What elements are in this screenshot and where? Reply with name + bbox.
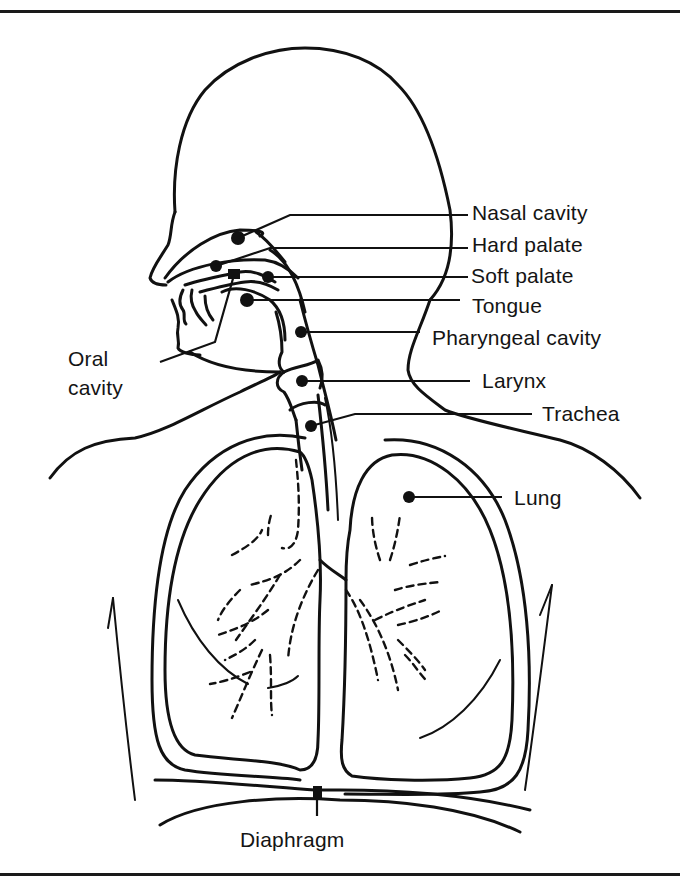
label-hard-palate: Hard palate — [472, 233, 583, 257]
label-diaphragm: Diaphragm — [240, 828, 345, 852]
label-nasal-cavity: Nasal cavity — [472, 201, 588, 225]
label-lung: Lung — [514, 486, 562, 510]
label-larynx: Larynx — [482, 369, 546, 393]
respiratory-system-figure: Nasal cavity Hard palate Soft palate Ton… — [0, 0, 680, 890]
label-trachea: Trachea — [542, 402, 620, 426]
diaphragm-marker — [313, 786, 322, 798]
label-soft-palate: Soft palate — [471, 264, 574, 288]
head-outline — [150, 48, 452, 372]
label-tongue: Tongue — [472, 294, 542, 318]
label-oral-cavity-line2: cavity — [68, 376, 123, 400]
label-pharyngeal-cavity: Pharyngeal cavity — [432, 326, 601, 350]
anatomy-illustration — [0, 0, 680, 890]
torso-lower — [108, 585, 552, 832]
label-oral-cavity-line1: Oral — [68, 347, 108, 371]
left-lung — [152, 435, 321, 780]
